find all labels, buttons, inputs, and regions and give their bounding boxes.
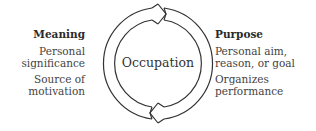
meaning-item: Personal significance (0, 45, 85, 69)
meaning-title: Meaning (0, 28, 85, 40)
center-label: Occupation (108, 55, 208, 70)
occupation-cycle-diagram: Occupation Meaning Personal significance… (0, 0, 316, 131)
purpose-panel: Purpose Personal aim, reason, or goal Or… (215, 28, 315, 101)
meaning-panel: Meaning Personal significance Source of … (0, 28, 85, 101)
meaning-item: Source of motivation (0, 73, 85, 97)
purpose-title: Purpose (215, 28, 315, 40)
purpose-item: Organizes performance (215, 73, 315, 97)
purpose-item: Personal aim, reason, or goal (215, 45, 315, 69)
